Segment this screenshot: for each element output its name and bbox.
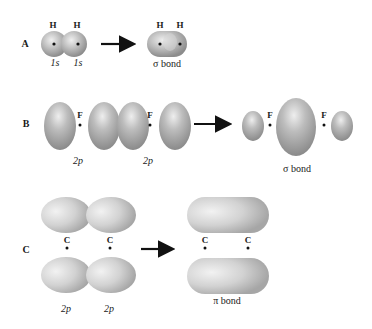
nucleus-dot: [76, 42, 79, 45]
f-2p-lobe: [44, 102, 76, 150]
row-c-product: [187, 197, 269, 294]
atom-label: C: [64, 235, 71, 245]
orbital-label: 1s: [74, 58, 83, 68]
orbital-label: 2p: [143, 156, 153, 166]
nucleus-dot: [109, 247, 112, 250]
row-b-product: [242, 98, 353, 156]
orbital-label: 1s: [51, 58, 60, 68]
orbital-label: 2p: [73, 156, 83, 166]
nucleus-dot: [178, 42, 181, 45]
atom-label: F: [147, 110, 153, 120]
f-2p-lobe: [117, 102, 149, 150]
pi-bond-orbital-top: [187, 197, 269, 233]
atom-label: H: [156, 20, 163, 30]
atom-label: C: [202, 235, 209, 245]
c-2p-lobe-top: [86, 197, 136, 233]
nucleus-dot: [204, 247, 207, 250]
orbital-diagram: [0, 0, 372, 329]
row-label-a: A: [21, 39, 28, 49]
nucleus-dot: [158, 42, 161, 45]
atom-label: H: [73, 20, 80, 30]
row-b-reactants: [44, 102, 191, 150]
row-label-b: B: [23, 119, 30, 129]
orbital-label: 2p: [61, 304, 71, 314]
f-2p-lobe: [88, 102, 120, 150]
atom-label: C: [107, 235, 114, 245]
atom-label: F: [321, 110, 327, 120]
orbital-label: 2p: [104, 304, 114, 314]
atom-label: F: [267, 110, 273, 120]
nucleus-dot: [79, 124, 82, 127]
row-a-reactants: [41, 31, 87, 57]
nucleus-dot: [149, 124, 152, 127]
row-a-product: [147, 31, 187, 57]
atom-label: F: [77, 110, 83, 120]
atom-label: H: [49, 20, 56, 30]
bond-caption: σ bond: [283, 164, 311, 174]
atom-label: H: [176, 20, 183, 30]
nucleus-dot: [66, 247, 69, 250]
atom-label: C: [245, 235, 252, 245]
nucleus-dot: [323, 124, 326, 127]
f-2p-lobe: [159, 102, 191, 150]
nucleus-dot: [52, 42, 55, 45]
c-2p-lobe-bottom: [41, 257, 91, 293]
bond-caption: π bond: [213, 296, 241, 306]
c-2p-lobe-bottom: [86, 257, 136, 293]
row-label-c: C: [22, 245, 29, 255]
row-c-reactants: [41, 197, 136, 293]
f2-sigma-bond-orbital: [276, 98, 316, 156]
f-small-lobe: [242, 111, 264, 141]
h-1s-orbital: [61, 31, 87, 57]
pi-bond-orbital-bottom: [187, 258, 269, 294]
bond-caption: σ bond: [153, 59, 181, 69]
c-2p-lobe-top: [41, 197, 91, 233]
f-small-lobe: [331, 111, 353, 141]
nucleus-dot: [269, 124, 272, 127]
nucleus-dot: [247, 247, 250, 250]
